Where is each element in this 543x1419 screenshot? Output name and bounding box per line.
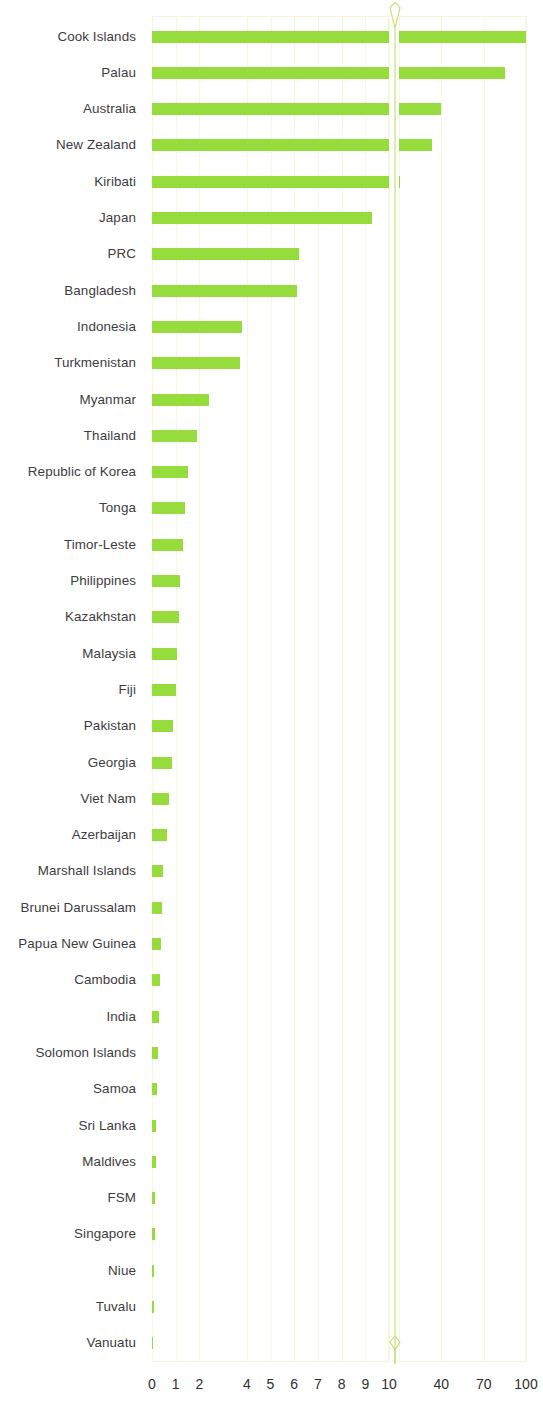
bar (152, 321, 242, 333)
x-tick-label: 0 (148, 1376, 156, 1392)
category-label: Georgia (88, 756, 136, 770)
bar (152, 611, 179, 623)
x-tick-label: 9 (361, 1376, 369, 1392)
category-label: Vanuatu (86, 1336, 136, 1350)
horizontal-bar-chart: Cook IslandsPalauAustraliaNew ZealandKir… (0, 0, 543, 1419)
category-axis-labels: Cook IslandsPalauAustraliaNew ZealandKir… (0, 0, 146, 1419)
category-label: Kazakhstan (65, 610, 136, 624)
x-tick-label: 7 (314, 1376, 322, 1392)
bar (152, 466, 188, 478)
bar (152, 539, 183, 551)
x-tick-label: 2 (195, 1376, 203, 1392)
bar-continuation (399, 103, 441, 115)
bar (152, 757, 172, 769)
category-label: Niue (108, 1264, 136, 1278)
value-axis: 012456789104070100 (152, 1362, 526, 1402)
bar (152, 938, 161, 950)
category-label: FSM (107, 1191, 136, 1205)
bar (152, 865, 163, 877)
plot-panel-right-segment (399, 16, 526, 1362)
x-tick-label: 10 (381, 1376, 397, 1392)
category-label: Japan (99, 211, 136, 225)
category-label: Marshall Islands (38, 864, 136, 878)
category-label: Thailand (84, 429, 136, 443)
bar (152, 902, 162, 914)
gridline (389, 16, 390, 1362)
bar (152, 1192, 155, 1204)
category-label: Malaysia (82, 647, 136, 661)
category-label: Viet Nam (80, 792, 136, 806)
gridline (484, 16, 485, 1362)
category-label: Palau (101, 66, 136, 80)
category-label: Tonga (99, 501, 136, 515)
x-tick-label: 100 (514, 1376, 537, 1392)
category-label: PRC (107, 247, 136, 261)
x-tick-label: 5 (267, 1376, 275, 1392)
bar (152, 1337, 153, 1349)
category-label: Fiji (118, 683, 136, 697)
category-label: Singapore (74, 1227, 136, 1241)
bar (152, 1011, 159, 1023)
category-label: New Zealand (56, 138, 136, 152)
gridline (441, 16, 442, 1362)
bar-continuation (399, 67, 505, 79)
bar (152, 1120, 156, 1132)
x-tick-label: 40 (434, 1376, 450, 1392)
bar (152, 357, 240, 369)
category-label: Cook Islands (57, 30, 136, 44)
x-tick-label: 4 (243, 1376, 251, 1392)
bar (152, 248, 299, 260)
category-label: Indonesia (77, 320, 136, 334)
bar (152, 829, 167, 841)
bar (152, 139, 389, 151)
bar (152, 1301, 154, 1313)
bar (152, 176, 389, 188)
bar (152, 793, 169, 805)
category-label: Maldives (82, 1155, 136, 1169)
x-tick-label: 6 (290, 1376, 298, 1392)
bar (152, 103, 389, 115)
bar (152, 67, 389, 79)
bar (152, 684, 176, 696)
category-label: Pakistan (84, 719, 136, 733)
bar (152, 502, 185, 514)
bar (152, 394, 209, 406)
bar (152, 31, 389, 43)
bar-continuation (399, 139, 432, 151)
category-label: India (106, 1010, 136, 1024)
bar (152, 720, 173, 732)
plot-area (152, 16, 526, 1362)
category-label: Brunei Darussalam (20, 901, 136, 915)
bar (152, 648, 177, 660)
category-label: Cambodia (74, 973, 136, 987)
category-label: Sri Lanka (79, 1119, 136, 1133)
bar-continuation (399, 31, 526, 43)
x-tick-label: 1 (172, 1376, 180, 1392)
category-label: Republic of Korea (28, 465, 136, 479)
category-label: Philippines (70, 574, 136, 588)
category-label: Azerbaijan (72, 828, 136, 842)
bar (152, 1156, 156, 1168)
x-tick-label: 8 (338, 1376, 346, 1392)
category-label: Timor-Leste (64, 538, 136, 552)
bar (152, 575, 180, 587)
gridline (526, 16, 527, 1362)
category-label: Australia (83, 102, 136, 116)
category-label: Bangladesh (64, 284, 136, 298)
bar (152, 974, 160, 986)
bar (152, 1228, 155, 1240)
bar (152, 1265, 154, 1277)
bar (152, 1083, 157, 1095)
category-label: Papua New Guinea (18, 937, 136, 951)
category-label: Turkmenistan (54, 356, 136, 370)
bar (152, 212, 372, 224)
bar (152, 1047, 158, 1059)
category-label: Solomon Islands (36, 1046, 137, 1060)
category-label: Kiribati (94, 175, 136, 189)
x-tick-label: 70 (476, 1376, 492, 1392)
bar (152, 285, 297, 297)
category-label: Myanmar (79, 393, 136, 407)
category-label: Tuvalu (96, 1300, 136, 1314)
category-label: Samoa (93, 1082, 136, 1096)
bar (152, 430, 197, 442)
